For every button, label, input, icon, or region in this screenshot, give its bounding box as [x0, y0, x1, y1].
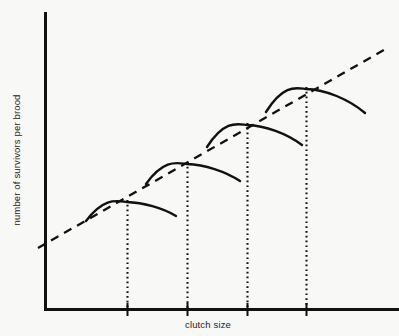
chart-background: [0, 0, 399, 336]
clutch-size-chart: number of survivors per brood clutch siz…: [0, 0, 399, 336]
y-axis-label: number of survivors per brood: [11, 94, 22, 225]
x-axis-label: clutch size: [185, 319, 231, 330]
